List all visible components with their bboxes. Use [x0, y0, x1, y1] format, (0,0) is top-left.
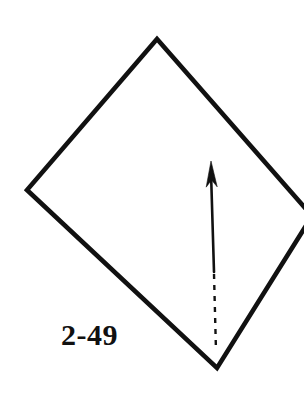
- figure-canvas-container: 2-49: [0, 0, 304, 405]
- page-background: [0, 0, 304, 405]
- figure-number-label: 2-49: [61, 318, 118, 352]
- figure-drawing: [0, 0, 304, 405]
